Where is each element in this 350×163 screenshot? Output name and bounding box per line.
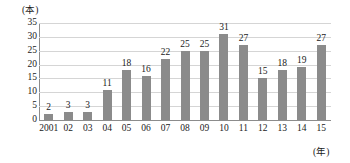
- plot-area: 233111816222525312715181927: [39, 23, 331, 120]
- gridline: [39, 37, 331, 38]
- x-axis-tick-label: 15: [304, 124, 338, 134]
- gridline: [39, 23, 331, 24]
- x-axis-line: [39, 120, 331, 121]
- bar: [200, 51, 209, 120]
- y-axis-tick-label: 5: [3, 101, 37, 111]
- y-axis-tick-labels: 05101520253035: [0, 0, 37, 163]
- bar: [64, 112, 73, 120]
- bar-value-label: 16: [131, 65, 161, 75]
- bar-value-label: 27: [306, 34, 336, 44]
- bar: [103, 90, 112, 120]
- bar: [83, 112, 92, 120]
- bar-value-label: 19: [287, 56, 317, 66]
- bar-value-label: 25: [189, 40, 219, 50]
- y-axis-tick-label: 10: [3, 87, 37, 97]
- bar: [258, 78, 267, 120]
- bar-value-label: 3: [73, 101, 103, 111]
- bar: [181, 51, 190, 120]
- bar: [317, 45, 326, 120]
- bar: [142, 76, 151, 120]
- x-axis-unit-label: (年): [313, 144, 329, 158]
- y-axis-tick-label: 35: [3, 18, 37, 28]
- bar: [239, 45, 248, 120]
- bar-value-label: 31: [209, 23, 239, 33]
- y-axis-tick-label: 30: [3, 32, 37, 42]
- bar: [278, 70, 287, 120]
- bar-value-label: 11: [92, 79, 122, 89]
- bar-chart: (本) (年) 05101520253035 23311181622252531…: [0, 0, 350, 163]
- bar: [297, 67, 306, 120]
- bar: [161, 59, 170, 120]
- bar-value-label: 27: [228, 34, 258, 44]
- bar: [44, 114, 53, 120]
- bar-value-label: 22: [151, 48, 181, 58]
- y-axis-tick-label: 20: [3, 60, 37, 70]
- bar: [219, 34, 228, 120]
- bar-value-label: 15: [248, 67, 278, 77]
- y-axis-tick-label: 15: [3, 73, 37, 83]
- bar: [122, 70, 131, 120]
- y-axis-tick-label: 25: [3, 46, 37, 56]
